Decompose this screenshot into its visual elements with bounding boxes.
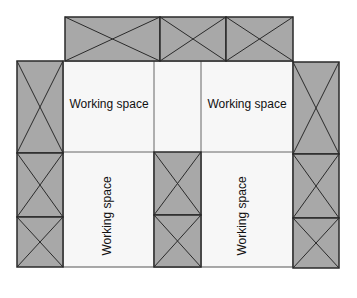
working-space-label-top-right: Working space	[207, 97, 286, 111]
rack-unit	[293, 218, 339, 268]
rack-unit	[160, 17, 226, 61]
rack-unit	[17, 61, 63, 153]
rack-unit	[293, 62, 339, 154]
rack-unit	[154, 215, 201, 267]
layout-diagram: Working space Working space Working spac…	[0, 0, 357, 298]
rack-group-right-column	[293, 62, 339, 268]
rack-group-center-column	[154, 152, 201, 267]
rack-unit	[154, 152, 201, 215]
rack-unit	[65, 17, 160, 61]
working-space-label-bottom-left: Working space	[100, 176, 114, 255]
rack-unit	[17, 153, 63, 217]
rack-group-left-column	[17, 61, 63, 267]
rack-unit	[17, 217, 63, 267]
rack-group-top-row	[65, 17, 293, 61]
rack-unit	[226, 17, 293, 61]
rack-unit	[293, 154, 339, 218]
working-space-label-top-left: Working space	[69, 97, 148, 111]
working-space-label-bottom-right: Working space	[235, 176, 249, 255]
